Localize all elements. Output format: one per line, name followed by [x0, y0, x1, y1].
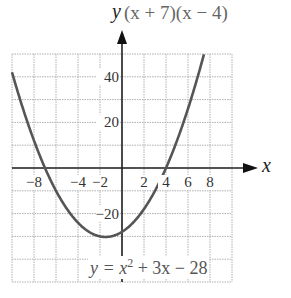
x-tick-label: −4 — [70, 174, 86, 190]
eq-suffix: + 3x − 28 — [133, 258, 207, 278]
x-tick-label: −2 — [92, 174, 108, 190]
factored-form-title: (x + 7)(x − 4) — [124, 2, 228, 24]
parabola-chart: −8−4−224684020−20 — [0, 0, 291, 298]
equation-label: y = x2 + 3x − 28 — [88, 256, 209, 279]
y-tick-label: 40 — [104, 69, 119, 85]
x-tick-label: −8 — [26, 174, 42, 190]
y-axis-label: y — [112, 0, 121, 23]
y-tick-label: 20 — [104, 114, 119, 130]
x-axis-arrow-icon — [243, 163, 258, 173]
x-axis-label: x — [262, 154, 271, 177]
x-tick-label: 8 — [206, 174, 214, 190]
x-tick-label: 2 — [140, 174, 148, 190]
y-tick-label: −20 — [96, 206, 119, 222]
x-tick-label: 6 — [184, 174, 192, 190]
y-axis-arrow-icon — [117, 30, 127, 44]
x-tick-label: 4 — [162, 174, 170, 190]
axes — [12, 30, 258, 282]
eq-prefix: y = x — [90, 258, 127, 278]
